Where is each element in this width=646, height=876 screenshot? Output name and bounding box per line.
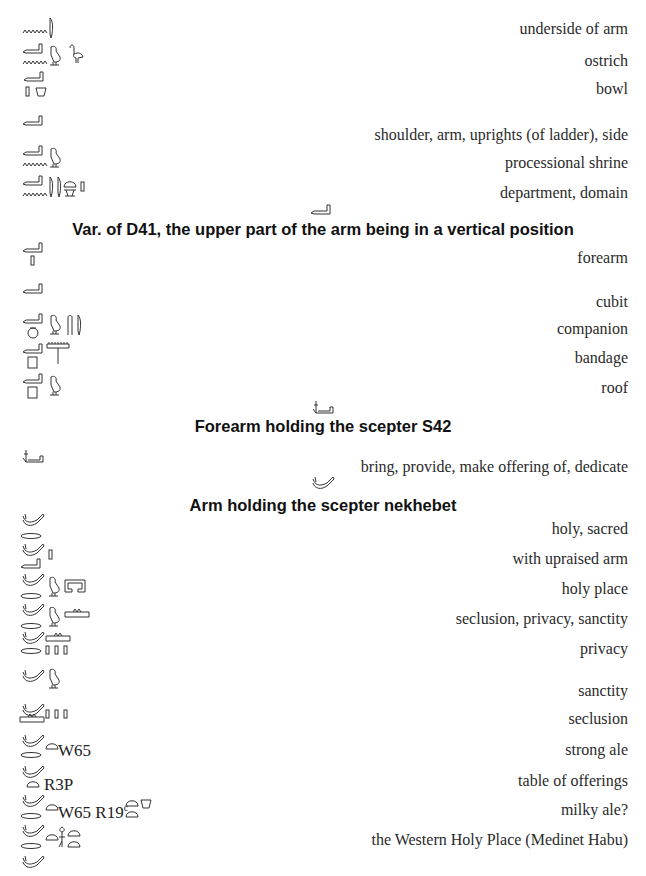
arm-icon — [24, 72, 44, 82]
gloss: table of offerings — [518, 772, 628, 790]
ostrich-icon — [68, 44, 84, 66]
arm-nekhebet-icon — [23, 856, 43, 868]
gloss: roof — [601, 379, 628, 397]
gloss: underside of arm — [520, 20, 628, 38]
mouth-icon — [21, 813, 41, 818]
arm-nekhebet-icon — [23, 604, 43, 616]
water-ripple-icon — [23, 162, 47, 168]
bread-icon — [46, 742, 58, 750]
gloss: holy place — [562, 580, 628, 598]
gloss: holy, sacred — [552, 520, 628, 538]
gloss: forearm — [577, 249, 628, 267]
bread-icon — [46, 833, 58, 841]
arm-nekhebet-icon — [23, 670, 43, 682]
bread-icon — [27, 780, 39, 788]
gloss: sanctity — [578, 682, 628, 700]
arm-icon — [23, 284, 43, 294]
quail-chick-icon — [48, 45, 62, 67]
arm-icon — [23, 44, 43, 54]
quail-chick-icon — [47, 668, 61, 690]
arm-nekhebet-icon — [23, 795, 43, 807]
gloss: milky ale? — [561, 801, 628, 819]
reed-leaf-icon — [57, 177, 63, 199]
gloss: the Western Holy Place (Medinet Habu) — [371, 831, 628, 849]
plural-strokes-icon — [46, 710, 68, 718]
gloss: seclusion — [568, 710, 628, 728]
quail-chick-icon — [47, 576, 61, 598]
gloss: privacy — [580, 640, 628, 658]
bowl-icon — [141, 800, 151, 808]
gloss: shoulder, arm, uprights (of ladder), sid… — [374, 126, 628, 144]
gloss: with upraised arm — [512, 550, 628, 568]
stool-icon — [28, 387, 37, 398]
quail-chick-icon — [47, 606, 61, 628]
gloss: ostrich — [584, 52, 628, 70]
water-ripple-icon — [23, 60, 47, 66]
bowl-icon — [36, 88, 46, 96]
arm-nekhebet-icon — [23, 766, 43, 778]
loaf-icon — [64, 180, 76, 188]
arm-nekhebet-icon — [23, 825, 43, 837]
bread-icon — [126, 810, 138, 818]
sign-code: W65 — [58, 741, 91, 761]
altar-icon — [46, 632, 70, 642]
arm-nekhebet-heading-icon — [313, 477, 335, 491]
sign-code: W65 R19c — [58, 802, 128, 823]
reed-leaf-icon — [49, 177, 55, 199]
stroke-icon — [81, 182, 84, 191]
section-heading: Arm holding the scepter nekhebet — [0, 496, 646, 515]
bread-icon — [46, 803, 58, 811]
gloss: department, domain — [500, 184, 628, 202]
bread-icon — [68, 840, 80, 848]
mouth-icon — [21, 593, 41, 598]
section-heading: Var. of D41, the upper part of the arm b… — [0, 220, 646, 239]
reed-leaf-icon — [49, 18, 55, 40]
arm-nekhebet-icon — [23, 632, 43, 644]
crook-icon — [68, 315, 73, 337]
water-ripple-icon — [23, 192, 47, 198]
arm-nekhebet-icon — [23, 514, 43, 526]
gloss: processional shrine — [505, 154, 628, 172]
quail-chick-icon — [48, 314, 62, 336]
altar-icon — [65, 608, 89, 618]
arm-nekhebet-icon — [23, 574, 43, 586]
plural-strokes-icon — [46, 646, 68, 654]
gloss: strong ale — [565, 741, 628, 759]
stroke-icon — [49, 550, 52, 559]
water-ripple-icon — [23, 29, 47, 35]
gloss: bring, provide, make offering of, dedica… — [361, 458, 628, 476]
basket-icon — [64, 190, 76, 197]
quail-chick-icon — [48, 147, 62, 169]
mouth-icon — [21, 752, 41, 757]
arm-icon — [23, 176, 43, 186]
stroke-icon — [26, 87, 29, 96]
arm-nekhebet-icon — [23, 735, 43, 747]
stool-icon — [28, 357, 37, 368]
arm-nekhebet-icon — [23, 544, 43, 556]
gloss: seclusion, privacy, sanctity — [456, 610, 628, 628]
stroke-icon — [31, 256, 34, 265]
bread-icon — [126, 799, 138, 807]
arm-vertical-heading-icon — [311, 205, 331, 215]
arm-icon — [23, 374, 43, 384]
arm-icon — [21, 559, 41, 569]
gloss: companion — [557, 320, 628, 338]
quail-chick-icon — [48, 375, 62, 397]
enclosure-icon — [65, 580, 87, 592]
forearm-scepter-icon — [23, 450, 43, 462]
bread-icon — [68, 829, 80, 837]
sign-code: R3P — [44, 775, 73, 795]
mouth-icon — [21, 623, 41, 628]
altar-icon — [20, 713, 44, 723]
west-sign-icon — [59, 827, 65, 847]
arm-icon — [23, 243, 43, 253]
arm-icon — [23, 116, 43, 126]
section-heading: Forearm holding the scepter S42 — [0, 417, 646, 436]
gloss: bowl — [596, 80, 628, 98]
gloss: bandage — [575, 349, 628, 367]
comb-icon — [47, 342, 69, 364]
pot-icon — [27, 327, 39, 339]
sign-code-text: W65 R19 — [58, 803, 124, 822]
arm-icon — [23, 344, 43, 354]
reed-leaf-icon — [77, 315, 83, 337]
